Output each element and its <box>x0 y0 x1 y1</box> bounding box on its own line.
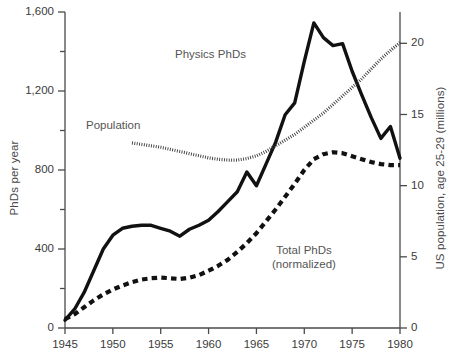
axis-tick-label: 1955 <box>148 338 174 350</box>
right-axis-ticks: 05101520 <box>400 36 424 333</box>
axis-tick-label: 1970 <box>291 338 317 350</box>
data-series-group <box>65 23 400 320</box>
bottom-axis-ticks: 19451950195519601965197019751980 <box>52 328 413 350</box>
axis-tick-label: 1,200 <box>25 84 54 96</box>
axis-tick-label: 0 <box>411 321 417 333</box>
series-label-physics-phds: Physics PhDs <box>175 47 246 61</box>
series-label-total-phds-line1: Total PhDs <box>272 243 336 257</box>
axis-tick-label: 10 <box>411 179 424 191</box>
axis-tick-label: 1,600 <box>25 5 54 17</box>
axis-tick-label: 1975 <box>339 338 365 350</box>
axis-tick-label: 1980 <box>387 338 413 350</box>
axis-tick-label: 1945 <box>52 338 78 350</box>
axis-tick-label: 1950 <box>100 338 126 350</box>
axis-tick-label: 800 <box>35 163 54 175</box>
series-label-total-phds-line2: (normalized) <box>272 257 336 271</box>
left-axis-ticks: 04008001,2001,600 <box>25 5 65 333</box>
axis-tick-label: 1965 <box>244 338 270 350</box>
y-axis-right-label: US population, age 25-29 (millions) <box>434 58 446 298</box>
axis-tick-label: 20 <box>411 36 424 48</box>
chart-container: 04008001,2001,600 05101520 1945195019551… <box>0 0 458 360</box>
axis-tick-label: 0 <box>48 321 54 333</box>
axis-tick-label: 400 <box>35 242 54 254</box>
series-label-total-phds: Total PhDs (normalized) <box>272 243 336 271</box>
axis-tick-label: 5 <box>411 250 417 262</box>
series-line-total-phds-normalized <box>65 152 400 319</box>
axis-tick-label: 1960 <box>196 338 222 350</box>
series-line-physics-phds <box>65 23 400 320</box>
series-line-population <box>132 43 400 160</box>
axis-tick-label: 15 <box>411 108 424 120</box>
series-label-population: Population <box>86 118 140 132</box>
y-axis-left-label: PhDs per year <box>8 118 20 238</box>
